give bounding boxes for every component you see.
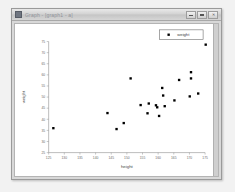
- minimize-icon: [189, 15, 193, 16]
- x-tick-label: 155: [140, 156, 146, 160]
- data-point[interactable]: [162, 94, 164, 96]
- app-icon: [15, 11, 22, 18]
- x-tick-label: 135: [77, 156, 83, 160]
- y-tick-label: 40: [41, 118, 45, 122]
- desktop-background: Graph - [graph1 - a] ✕ 12513013514014515…: [0, 0, 235, 192]
- plot-group: 1251301351401451501551601651701752530354…: [21, 30, 208, 169]
- data-point[interactable]: [148, 102, 150, 104]
- data-point[interactable]: [155, 104, 157, 106]
- data-point[interactable]: [139, 104, 141, 106]
- scatter-plot-canvas: 1251301351401451501551601651701752530354…: [15, 24, 213, 176]
- data-point[interactable]: [129, 77, 131, 79]
- data-point[interactable]: [197, 92, 199, 94]
- window-controls: ✕: [186, 11, 218, 19]
- y-tick-label: 70: [41, 51, 45, 55]
- data-point[interactable]: [106, 112, 108, 114]
- maximize-icon: [200, 14, 204, 16]
- x-tick-label: 170: [187, 156, 193, 160]
- y-tick-label: 35: [41, 129, 45, 133]
- close-button[interactable]: ✕: [208, 11, 218, 19]
- data-point[interactable]: [178, 79, 180, 81]
- data-point[interactable]: [123, 122, 125, 124]
- data-point[interactable]: [205, 43, 207, 45]
- legend-label: weight: [177, 32, 190, 37]
- scatter-plot: 1251301351401451501551601651701752530354…: [15, 24, 213, 176]
- data-point[interactable]: [173, 99, 175, 101]
- y-tick-label: 45: [41, 106, 45, 110]
- window-client-area: 1251301351401451501551601651701752530354…: [14, 23, 219, 177]
- window-title-bar[interactable]: Graph - [graph1 - a] ✕: [12, 9, 221, 21]
- y-tick-label: 30: [41, 140, 45, 144]
- window-title: Graph - [graph1 - a]: [25, 12, 186, 18]
- data-point[interactable]: [146, 112, 148, 114]
- x-tick-label: 125: [46, 156, 52, 160]
- maximize-button[interactable]: [197, 11, 207, 19]
- data-point[interactable]: [189, 95, 191, 97]
- x-tick-label: 145: [108, 156, 114, 160]
- data-point[interactable]: [164, 105, 166, 107]
- data-point[interactable]: [161, 87, 163, 89]
- data-point[interactable]: [190, 77, 192, 79]
- legend-marker: [167, 34, 169, 36]
- y-axis-title: weight: [21, 90, 26, 103]
- y-tick-label: 55: [41, 84, 45, 88]
- x-tick-label: 165: [171, 156, 177, 160]
- vertical-scrollbar[interactable]: [213, 24, 218, 176]
- x-axis-title: height: [121, 164, 134, 169]
- data-point[interactable]: [190, 71, 192, 73]
- y-tick-label: 25: [41, 151, 45, 155]
- x-tick-label: 175: [202, 156, 208, 160]
- x-tick-label: 160: [155, 156, 161, 160]
- close-icon: ✕: [209, 13, 217, 17]
- x-tick-label: 150: [124, 156, 130, 160]
- minimize-button[interactable]: [186, 11, 196, 19]
- application-window: Graph - [graph1 - a] ✕ 12513013514014515…: [11, 8, 222, 180]
- data-point[interactable]: [158, 115, 160, 117]
- data-point[interactable]: [52, 127, 54, 129]
- y-tick-label: 50: [41, 95, 45, 99]
- y-tick-label: 60: [41, 73, 45, 77]
- y-tick-label: 75: [41, 40, 45, 44]
- data-point[interactable]: [156, 106, 158, 108]
- data-point[interactable]: [115, 128, 117, 130]
- y-tick-label: 65: [41, 62, 45, 66]
- x-tick-label: 130: [61, 156, 67, 160]
- x-tick-label: 140: [93, 156, 99, 160]
